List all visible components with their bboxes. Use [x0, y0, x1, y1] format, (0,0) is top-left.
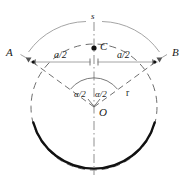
point-a-marker: [32, 61, 35, 64]
radius-right: [94, 64, 154, 108]
label-half-chord-right: a/2: [117, 50, 130, 60]
label-point-o: O: [99, 107, 107, 118]
point-c-marker: [91, 45, 96, 50]
geometry-figure: A B C O s r a/2 a/2 α/2 α/2: [0, 0, 189, 189]
point-b-marker: [153, 61, 156, 64]
leader-a: [21, 55, 31, 61]
label-arc-s: s: [91, 12, 95, 21]
label-half-chord-left: a/2: [54, 50, 67, 60]
label-point-c: C: [100, 41, 107, 52]
radius-left: [35, 64, 95, 108]
label-radius: r: [126, 89, 129, 99]
label-point-b: B: [172, 47, 179, 58]
outer-arc-s-right: [102, 22, 160, 53]
label-half-angle-left: α/2: [74, 90, 86, 99]
label-half-angle-right: α/2: [95, 90, 107, 99]
label-point-a: A: [6, 47, 13, 58]
leader-b: [158, 55, 167, 61]
outer-arc-s-left: [29, 22, 87, 53]
